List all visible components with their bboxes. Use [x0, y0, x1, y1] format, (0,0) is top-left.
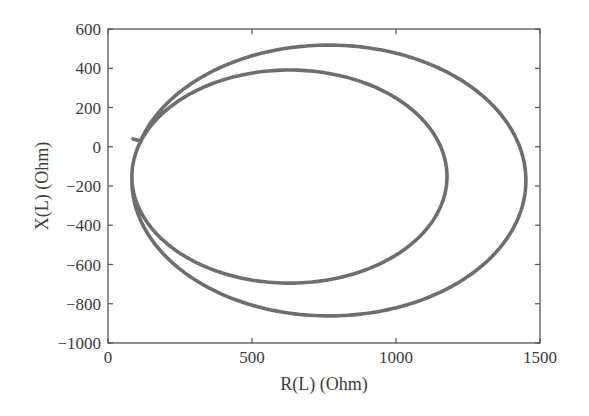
x-tick-label: 1500 [523, 348, 557, 367]
y-tick-label: 600 [76, 20, 102, 39]
y-tick-label: −200 [66, 177, 101, 196]
trajectory-line [132, 45, 526, 316]
y-tick-label: 0 [93, 138, 102, 157]
x-tick-label: 500 [239, 348, 265, 367]
y-tick-label: −1000 [57, 334, 101, 353]
y-tick-label: −800 [66, 295, 101, 314]
x-tick-label: 1000 [379, 348, 413, 367]
x-axis-label: R(L) (Ohm) [280, 374, 367, 395]
y-tick-label: −400 [66, 216, 101, 235]
x-tick-label: 0 [104, 348, 113, 367]
y-tick-label: −600 [66, 256, 101, 275]
y-axis-label: X(L) (Ohm) [32, 142, 53, 230]
trajectory-curve [132, 45, 526, 316]
plot-frame [108, 29, 540, 343]
y-tick-label: 400 [76, 59, 102, 78]
impedance-trajectory-chart: 050010001500 6004002000−200−400−600−800−… [0, 0, 589, 416]
y-tick-label: 200 [76, 99, 102, 118]
